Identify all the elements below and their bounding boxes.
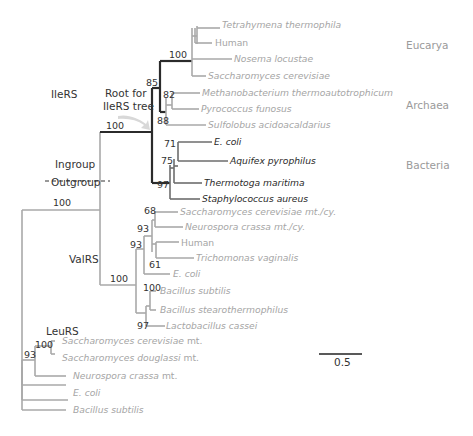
taxon: Tetrahymena thermophila [222,19,342,30]
svg-text:100: 100 [106,120,124,131]
svg-text:93: 93 [137,223,149,234]
domain-eucarya: Eucarya [406,39,448,51]
taxon: Aquifex pyrophilus [229,155,316,166]
svg-text:75: 75 [161,155,173,166]
taxon: Human [215,37,248,48]
svg-text:97: 97 [157,179,169,190]
valRS-label: ValRS [69,253,99,265]
svg-text:68: 68 [144,205,156,216]
leuRS-taxa: Saccharomyces cerevisiae mt. Saccharomyc… [62,335,202,415]
taxon: Bacillus stearothermophilus [160,304,288,315]
taxon: Methanobacterium thermoautotrophicum [202,87,393,98]
taxon: Neurospora crassa mt./cy. [185,221,305,232]
scale-bar-label: 0.5 [334,356,351,368]
taxon: E. coli [214,136,242,147]
svg-text:71: 71 [164,138,176,149]
taxon: Pyrococcus funosus [201,103,292,114]
svg-text:61: 61 [149,259,161,270]
taxon: Staphylococcus aureus [202,193,308,204]
svg-text:93: 93 [24,349,36,360]
outgroup-label: Outgroup [51,176,101,188]
taxon: Saccharomyces douglassi mt. [62,352,199,363]
taxon: Saccharomyces cerevisiae mt./cy. [180,206,336,217]
phylogenetic-tree: 0.5 IleRS Root for IleRS tree Ingroup Ou… [0,0,473,436]
taxon: Human [181,237,214,248]
svg-text:100: 100 [35,339,53,350]
root-label-line2: IleRS tree [103,100,154,112]
svg-text:97: 97 [137,320,149,331]
ileRS-taxa: Tetrahymena thermophila Human Nosema loc… [201,19,393,204]
taxon: Bacillus subtilis [73,404,144,415]
taxon: Trichomonas vaginalis [196,252,298,263]
ingroup-label: Ingroup [55,158,96,170]
domain-archaea: Archaea [406,99,449,111]
taxon: Lactobacillus cassei [166,320,258,331]
svg-text:85: 85 [146,77,158,88]
taxon: E. coli [73,387,101,398]
taxon: Saccharomyces cerevisiae mt. [62,335,202,346]
svg-text:100: 100 [110,273,128,284]
taxon: E. coli [173,268,201,279]
taxon: Nosema locustae [234,53,314,64]
ileRS-label: IleRS [51,88,78,100]
taxon: Thermotoga maritima [204,177,305,188]
taxon: Sulfolobus acidoacaldarius [208,119,331,130]
svg-text:100: 100 [53,197,71,208]
domain-bacteria: Bacteria [406,159,450,171]
svg-text:100: 100 [169,49,187,60]
root-label-line1: Root for [105,87,147,99]
backbone-branches [22,132,136,410]
svg-text:88: 88 [157,115,169,126]
taxon: Bacillus subtilis [160,285,231,296]
svg-text:82: 82 [163,89,175,100]
svg-text:93: 93 [130,239,142,250]
valRS-taxa: Saccharomyces cerevisiae mt./cy. Neurosp… [160,206,336,331]
svg-text:100: 100 [143,282,161,293]
taxon: Saccharomyces cerevisiae [208,70,330,81]
taxon: Neurospora crassa mt. [73,370,177,381]
